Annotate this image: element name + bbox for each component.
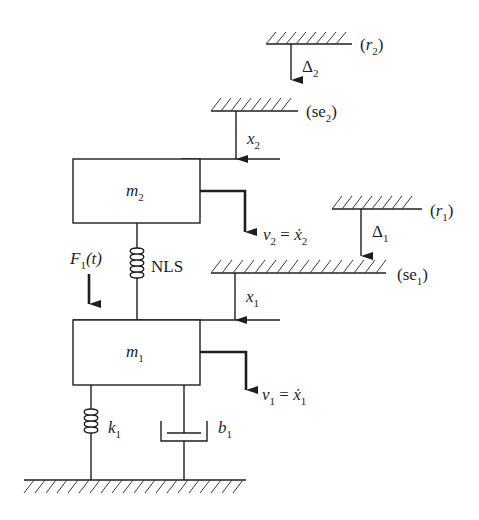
mass-m1: m1 xyxy=(73,320,200,385)
reference-surface-r2: (r2) xyxy=(266,32,383,57)
x1-label: x1 xyxy=(245,287,259,309)
k1-label: k1 xyxy=(108,418,121,440)
force-f1: F1(t) xyxy=(69,249,102,271)
r2-label: (r2) xyxy=(360,35,383,57)
delta1-arrow: Δ1 xyxy=(361,209,388,256)
hatching xyxy=(266,32,346,44)
x2-label: x2 xyxy=(246,129,260,151)
delta1-label: Δ1 xyxy=(372,222,388,244)
delta2-label: Δ2 xyxy=(302,57,318,79)
nls-label: NLS xyxy=(151,257,183,276)
se1-label: (se1) xyxy=(397,265,428,287)
se2-label: (se2) xyxy=(306,102,337,124)
mass-m2: m2 xyxy=(73,159,200,223)
two-mass-mechanical-system-diagram: (r2) Δ2 (se2) x2 m2 v2 = ẋ2 xyxy=(0,0,479,520)
nonlinear-spring: NLS xyxy=(130,223,183,320)
delta2-arrow: Δ2 xyxy=(291,44,318,80)
v1-label: v1 = ẋ1 xyxy=(262,385,306,407)
reference-surface-r1: (r1) xyxy=(332,196,453,223)
x1-arrow: x1 xyxy=(235,273,259,320)
ground xyxy=(24,480,246,493)
spring-k1: k1 xyxy=(84,385,121,480)
v2-label: v2 = ẋ2 xyxy=(263,225,307,247)
v2-arrow: v2 = ẋ2 xyxy=(200,191,307,247)
damper-b1: b1 xyxy=(161,385,232,480)
x2-arrow: x2 xyxy=(236,111,260,159)
b1-label: b1 xyxy=(218,418,232,440)
reference-surface-se2: (se2) xyxy=(211,98,337,124)
force-label: F1(t) xyxy=(69,249,102,271)
r1-label: (r1) xyxy=(430,201,453,223)
v1-arrow: v1 = ẋ1 xyxy=(200,352,306,407)
reference-surface-se1: (se1) xyxy=(211,260,428,287)
